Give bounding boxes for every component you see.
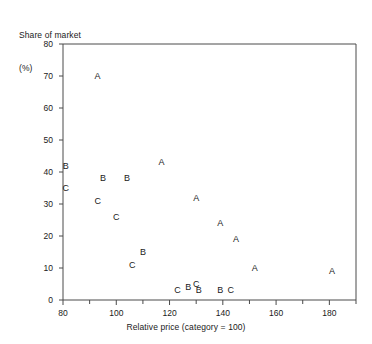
data-point-a: A: [252, 264, 258, 273]
x-axis-ticks: [63, 300, 356, 305]
x-tick-label: 180: [314, 308, 344, 318]
data-point-a: A: [329, 267, 335, 276]
data-point-b: B: [217, 286, 223, 295]
x-tick-label: 120: [155, 308, 185, 318]
y-axis-ticks: [59, 44, 63, 300]
y-tick-label: 30: [31, 199, 53, 209]
data-point-b: B: [63, 161, 69, 170]
x-tick-label: 100: [101, 308, 131, 318]
data-point-a: A: [159, 158, 165, 167]
data-point-c: C: [228, 286, 235, 295]
data-point-b: B: [124, 174, 130, 183]
y-tick-label: 50: [31, 135, 53, 145]
data-point-b: B: [185, 283, 191, 292]
data-point-b: B: [140, 248, 146, 257]
data-point-b: B: [100, 174, 106, 183]
data-point-c: C: [174, 286, 181, 295]
y-tick-label: 70: [31, 71, 53, 81]
y-tick-label: 10: [31, 263, 53, 273]
data-point-c: C: [62, 184, 69, 193]
x-tick-label: 140: [208, 308, 238, 318]
y-tick-label: 40: [31, 167, 53, 177]
data-point-a: A: [233, 235, 239, 244]
data-point-a: A: [193, 193, 199, 202]
y-tick-label: 80: [31, 39, 53, 49]
data-point-c: C: [113, 212, 120, 221]
scatter-chart: Share of market (%) 01020304050607080 80…: [0, 0, 372, 344]
x-tick-label: 80: [48, 308, 78, 318]
data-point-c: C: [94, 196, 101, 205]
data-point-a: A: [95, 72, 101, 81]
y-tick-label: 60: [31, 103, 53, 113]
data-point-c: C: [193, 280, 200, 289]
data-point-c: C: [129, 260, 136, 269]
x-axis-title: Relative price (category = 100): [0, 322, 372, 332]
chart-frame: [0, 0, 372, 344]
x-tick-label: 160: [261, 308, 291, 318]
y-tick-label: 0: [31, 295, 53, 305]
axis-lines: [63, 44, 356, 300]
y-tick-label: 20: [31, 231, 53, 241]
data-point-a: A: [217, 219, 223, 228]
